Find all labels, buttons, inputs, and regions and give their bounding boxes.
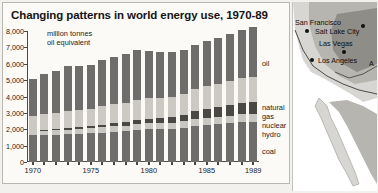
bar-segment-natural-gas (40, 114, 48, 130)
bar-segment-oil (75, 66, 83, 110)
bar-segment-natural-gas (133, 100, 141, 120)
bar-segment-coal (75, 134, 83, 162)
bar-segment-natural-gas (52, 113, 60, 129)
bar-segment-natural-gas (226, 81, 234, 105)
bar-segment-nuclear (214, 107, 222, 117)
bar-segment-oil (156, 52, 164, 98)
bar-segment-natural-gas (122, 103, 130, 122)
bar-segment-natural-gas (180, 94, 188, 114)
map-city-dot (342, 50, 346, 54)
x-axis-tick-mark (183, 162, 185, 165)
y-axis-tick-mark (24, 113, 27, 114)
chart-panel: Changing patterns in world energy use, 1… (2, 2, 290, 184)
y-axis-tick-mark (24, 129, 27, 130)
bar-1985 (203, 41, 211, 162)
bar-segment-oil (110, 57, 118, 104)
bar-segment-hydro (203, 118, 211, 125)
bar-segment-hydro (238, 114, 246, 122)
y-axis-tick-mark (24, 146, 27, 147)
bar-segment-nuclear (203, 109, 211, 118)
bar-segment-coal (133, 130, 141, 162)
bar-segment-oil (191, 45, 199, 90)
bar-segment-coal (203, 125, 211, 162)
bar-segment-coal (122, 131, 130, 162)
map-city-label: A (369, 59, 374, 68)
y-axis-tick-mark (24, 64, 27, 65)
bar-segment-oil (226, 34, 234, 81)
y-axis-tick-mark (24, 162, 27, 163)
y-axis-tick-mark (24, 31, 27, 32)
x-axis-tick-mark (194, 162, 196, 165)
bar-segment-oil (203, 41, 211, 86)
x-axis-tick-mark (101, 162, 103, 165)
bar-1976 (98, 60, 106, 162)
bar-segment-natural-gas (145, 98, 153, 118)
bar-1981 (156, 52, 164, 162)
y-axis-tick-label: 0 (4, 158, 24, 167)
bar-segment-natural-gas (249, 77, 257, 103)
bar-segment-hydro (249, 114, 257, 122)
map-city-label: Salt Lake City (315, 27, 359, 36)
bar-segment-coal (226, 123, 234, 162)
bar-segment-hydro (226, 116, 234, 124)
x-axis-tick-mark (206, 162, 208, 165)
y-axis-tick-label: 4,000 (4, 92, 24, 101)
x-axis-tick-mark (217, 162, 219, 165)
bar-segment-nuclear (191, 111, 199, 119)
bar-segment-oil (168, 52, 176, 96)
bar-segment-natural-gas (238, 78, 246, 103)
legend-label-oil: oil (262, 60, 269, 69)
bar-1987 (226, 34, 234, 162)
bar-segment-oil (145, 51, 153, 99)
bar-segment-oil (40, 74, 48, 114)
bar-segment-natural-gas (98, 106, 106, 124)
x-axis-tick-mark (43, 162, 45, 165)
x-axis-tick-mark (67, 162, 69, 165)
bar-segment-coal (156, 129, 164, 162)
bar-1975 (87, 65, 95, 162)
map-city-dot (361, 24, 365, 28)
bar-1986 (214, 38, 222, 162)
bar-segment-nuclear (238, 103, 246, 114)
bar-1973 (64, 66, 72, 162)
y-axis-tick-mark (24, 47, 27, 48)
bar-segment-hydro (214, 117, 222, 124)
x-axis-tick-mark (125, 162, 127, 165)
bar-segment-coal (52, 135, 60, 162)
legend-label-hydro: hydro (262, 131, 281, 140)
bar-segment-oil (87, 65, 95, 109)
bar-segment-coal (191, 126, 199, 162)
bar-segment-oil (133, 50, 141, 100)
bar-segment-coal (98, 133, 106, 162)
bar-segment-natural-gas (64, 111, 72, 128)
bar-segment-coal (214, 124, 222, 162)
x-axis-tick-label: 1989 (245, 166, 261, 175)
bar-segment-natural-gas (214, 84, 222, 107)
bar-segment-oil (214, 38, 222, 85)
bar-segment-oil (180, 50, 188, 94)
bar-1977 (110, 57, 118, 162)
bar-1984 (191, 45, 199, 162)
bar-segment-oil (249, 27, 257, 76)
bar-1983 (180, 50, 188, 162)
bar-1989 (249, 27, 257, 162)
bar-1982 (168, 52, 176, 162)
map-city-label: Las Vegas (319, 39, 353, 48)
bar-segment-nuclear (180, 115, 188, 122)
infographic-root: Changing patterns in world energy use, 1… (0, 0, 378, 193)
bar-segment-coal (180, 128, 188, 162)
x-axis-tick-mark (32, 162, 34, 165)
y-axis-tick-label: 2,000 (4, 125, 24, 134)
bar-segment-natural-gas (110, 104, 118, 123)
bar-segment-coal (40, 135, 48, 162)
bar-1972 (52, 71, 60, 162)
bar-1988 (238, 30, 246, 162)
bar-segment-natural-gas (87, 109, 95, 127)
x-axis-tick-mark (90, 162, 92, 165)
bar-1979 (133, 50, 141, 162)
bar-segment-natural-gas (156, 98, 164, 118)
y-axis-tick-label: 7,000 (4, 43, 24, 52)
bar-segment-hydro (180, 121, 188, 128)
bar-segment-natural-gas (168, 97, 176, 117)
x-axis-tick-label: 1970 (25, 166, 41, 175)
